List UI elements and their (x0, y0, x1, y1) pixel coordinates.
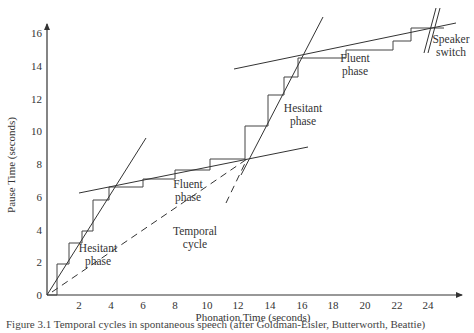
y-tick: 4 (37, 224, 43, 236)
x-tick-labels: 2 4 6 8 10 12 14 16 18 20 22 24 (76, 299, 434, 311)
hesitant-fit-2 (241, 17, 323, 175)
y-tick: 10 (31, 125, 43, 137)
annotation-speaker-switch: Speakerswitch (432, 33, 469, 58)
x-tick: 24 (423, 299, 435, 311)
annotation-hesitant-phase-1: Hesitantphase (79, 242, 118, 268)
y-tick-labels: 0 2 4 6 8 10 12 14 16 (31, 27, 43, 301)
y-tick: 6 (37, 191, 43, 203)
x-tick: 22 (392, 299, 403, 311)
y-tick: 2 (37, 256, 43, 268)
y-axis-title: Pause Time (seconds) (5, 117, 18, 213)
x-tick: 6 (140, 299, 146, 311)
x-tick: 12 (233, 299, 244, 311)
x-tick: 2 (76, 299, 82, 311)
figure-caption: Figure 3.1 Temporal cycles in spontaneou… (6, 318, 474, 330)
y-tick: 12 (31, 93, 42, 105)
annotation-temporal-cycle: Temporalcycle (173, 225, 217, 251)
x-tick: 8 (172, 299, 178, 311)
x-tick: 18 (328, 299, 340, 311)
annotation-fluent-phase-1: Fluentphase (173, 178, 203, 204)
x-tick: 4 (108, 299, 114, 311)
x-tick: 14 (265, 299, 277, 311)
x-tick: 10 (202, 299, 214, 311)
annotations: Hesitantphase Fluentphase Temporalcycle … (79, 33, 470, 268)
annotation-hesitant-phase-2: Hesitantphase (284, 102, 323, 128)
y-tick: 14 (31, 60, 43, 72)
temporal-cycle-dashed-upper (226, 159, 247, 203)
y-tick: 0 (37, 289, 43, 301)
temporal-cycle-chart: 0 2 4 6 8 10 12 14 16 2 4 6 8 10 12 14 1… (0, 0, 474, 333)
y-tick: 8 (37, 158, 43, 170)
annotation-fluent-phase-2: Fluentphase (340, 52, 370, 78)
x-tick: 20 (360, 299, 372, 311)
y-tick: 16 (31, 27, 43, 39)
x-tick: 16 (297, 299, 309, 311)
hesitant-fit-1 (47, 138, 146, 295)
